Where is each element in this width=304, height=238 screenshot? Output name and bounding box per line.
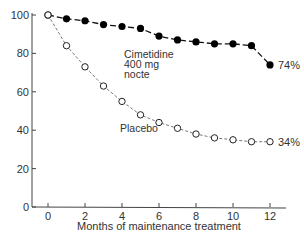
labels-group: 74%Cimetidine400 mgnocte34%Placebo: [120, 48, 300, 148]
filled-circle-marker: [266, 61, 273, 68]
y-tick-label: 100: [11, 9, 29, 21]
x-axis-line: [32, 207, 286, 208]
filled-circle-marker: [81, 17, 88, 24]
chart-canvas: 020406080100024681012 74%Cimetidine400 m…: [0, 0, 304, 238]
y-tick-label: 80: [17, 47, 29, 59]
filled-circle-marker: [155, 33, 162, 40]
open-circle-marker: [45, 12, 51, 18]
x-axis-label: Months of maintenance treatment: [77, 220, 241, 232]
series-group: [44, 11, 273, 145]
y-tick-label: 0: [23, 201, 29, 213]
filled-circle-marker: [211, 40, 218, 47]
open-circle-marker: [230, 137, 236, 143]
open-circle-marker: [211, 135, 217, 141]
open-circle-marker: [119, 98, 125, 104]
filled-circle-marker: [63, 15, 70, 22]
open-circle-marker: [137, 112, 143, 118]
y-tick-label: 40: [17, 124, 29, 136]
filled-circle-marker: [100, 21, 107, 28]
open-circle-marker: [193, 131, 199, 137]
y-tick-label: 60: [17, 86, 29, 98]
open-circle-marker: [100, 83, 106, 89]
y-tick-label: 20: [17, 163, 29, 175]
open-circle-marker: [267, 139, 273, 145]
survival-line-chart: 020406080100024681012 74%Cimetidine400 m…: [0, 0, 304, 238]
x-tick-label: 12: [264, 210, 276, 222]
open-circle-marker: [174, 125, 180, 131]
filled-circle-marker: [229, 40, 236, 47]
cimetidine-series-label: nocte: [124, 68, 150, 80]
filled-circle-marker: [118, 23, 125, 30]
open-circle-marker: [82, 64, 88, 70]
cimetidine-end-label: 74%: [278, 59, 300, 71]
filled-circle-marker: [248, 42, 255, 49]
filled-circle-marker: [192, 38, 199, 45]
x-tick-label: 0: [45, 210, 51, 222]
filled-circle-marker: [174, 36, 181, 43]
placebo-end-label: 34%: [278, 136, 300, 148]
open-circle-marker: [248, 139, 254, 145]
open-circle-marker: [63, 43, 69, 49]
axes: 020406080100024681012: [11, 9, 286, 222]
placebo-series-label: Placebo: [120, 122, 158, 134]
filled-circle-marker: [137, 25, 144, 32]
